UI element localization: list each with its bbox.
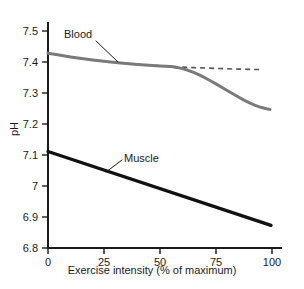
y-tick-label-7-0: 7 <box>6 180 38 192</box>
y-tick-label-7-5: 7.5 <box>6 25 38 37</box>
plot-area <box>0 0 304 289</box>
muscle-line <box>48 152 271 226</box>
y-tick-label-7-4: 7.4 <box>6 56 38 68</box>
muscle-leader-line <box>106 160 122 172</box>
y-tick-label-7-1: 7.1 <box>6 149 38 161</box>
y-tick-label-6-8: 6.8 <box>6 242 38 254</box>
ph-exercise-intensity-chart: 7.5 7.4 7.3 7.2 7.1 7 6.9 6.8 0 25 50 75… <box>0 0 304 289</box>
blood-extrapolated-dashed-line <box>48 53 263 69</box>
muscle-series-label: Muscle <box>124 152 159 164</box>
blood-series-label: Blood <box>64 28 92 40</box>
blood-curve <box>48 53 270 109</box>
y-tick-label-7-3: 7.3 <box>6 87 38 99</box>
y-axis-title: pH <box>8 116 20 142</box>
x-axis-title: Exercise intensity (% of maximum) <box>0 264 304 276</box>
blood-leader-line <box>96 41 118 62</box>
y-tick-label-6-9: 6.9 <box>6 211 38 223</box>
